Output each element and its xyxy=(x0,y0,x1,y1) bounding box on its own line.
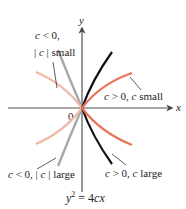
x-axis-label: x xyxy=(175,101,181,113)
label-neg-small-line2: | c | small xyxy=(34,46,75,58)
y-axis-label: y xyxy=(78,14,84,26)
label-pos-small: c > 0, c small xyxy=(104,90,163,102)
parabola-family-diagram: x y 0 c < 0, | c | small c > 0, c small … xyxy=(0,0,186,209)
leader-pos-small xyxy=(130,77,141,90)
label-neg-small-line1: c < 0, xyxy=(35,29,60,41)
label-neg-large: c < 0, | c | large xyxy=(8,168,75,180)
equation-label: y2 = 4cx xyxy=(65,190,105,205)
leader-neg-small xyxy=(53,62,57,88)
leader-pos-large xyxy=(112,154,126,165)
curve-pos-c-small xyxy=(82,73,132,145)
label-pos-large: c > 0, c large xyxy=(105,167,162,179)
